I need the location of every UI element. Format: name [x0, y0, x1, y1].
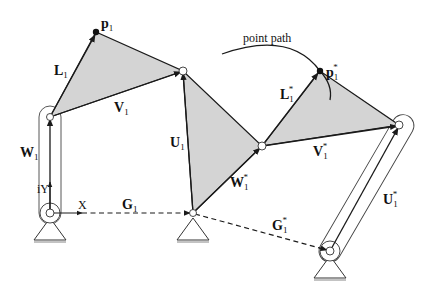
joint-ground-mid [190, 210, 197, 217]
label-G1: G1 [122, 197, 137, 214]
label-W1-star: W1* [230, 172, 249, 192]
joint-right [395, 121, 403, 129]
coupler-triangle-2 [262, 71, 399, 146]
label-point-path: point path [243, 31, 291, 45]
label-G1-star: G1* [272, 215, 287, 235]
middle-link-triangle [183, 71, 262, 213]
diagram-svg: p1 L1 V1 W1 U1 G1 X iY p1* L1* V1* W1* U… [0, 0, 430, 298]
label-X: X [78, 198, 87, 212]
vector-G1-star [195, 214, 327, 250]
joint-mid [258, 142, 266, 150]
joint-ground-right [326, 247, 334, 255]
label-W1: W1 [20, 145, 39, 162]
vector-U1-star [330, 128, 398, 251]
ground-support-mid [177, 218, 209, 242]
label-V1-star: V1* [313, 141, 328, 161]
label-V1: V1 [114, 100, 129, 117]
joint-ground-left [46, 209, 54, 217]
joint-left [47, 114, 54, 121]
point-p1-star [317, 68, 323, 74]
label-L1: L1 [54, 63, 68, 80]
joint-top [179, 67, 187, 75]
label-p1-star: p1* [326, 62, 338, 82]
label-p1: p1 [101, 16, 113, 33]
label-L1-star: L1* [280, 84, 294, 104]
label-U1: U1 [170, 135, 185, 152]
label-U1-star: U1* [383, 189, 398, 209]
linkage-diagram: p1 L1 V1 W1 U1 G1 X iY p1* L1* V1* W1* U… [0, 0, 430, 298]
label-iY: iY [37, 182, 49, 196]
point-p1 [93, 29, 99, 35]
